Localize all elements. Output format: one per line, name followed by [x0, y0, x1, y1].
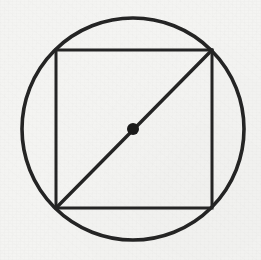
geometric-figure: Circle with inscribed square and diagona… — [0, 0, 261, 260]
center-point-dot — [127, 123, 139, 135]
figure-canvas: Circle with inscribed square and diagona… — [0, 0, 261, 260]
